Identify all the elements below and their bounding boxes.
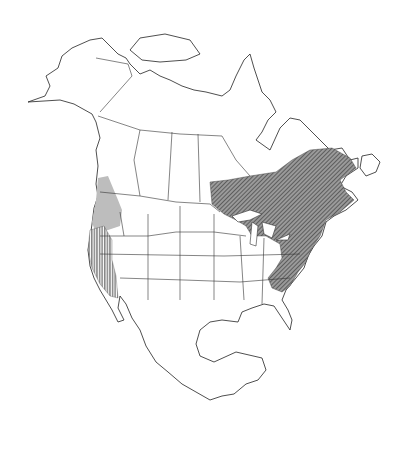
arctic-island bbox=[130, 34, 200, 62]
range-map bbox=[0, 0, 409, 451]
newfoundland bbox=[360, 154, 380, 176]
